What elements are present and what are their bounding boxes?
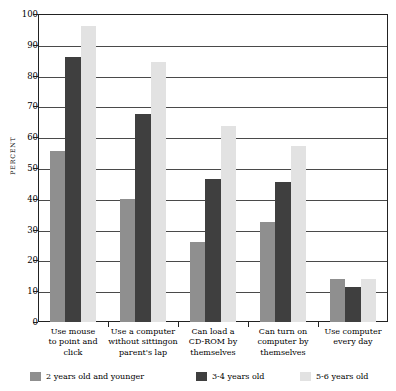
legend-item: 2 years old and younger (30, 372, 144, 381)
x-category-label-line: CD-ROM by (178, 337, 248, 347)
bar (205, 179, 221, 322)
bar (291, 146, 307, 322)
bar (50, 151, 66, 322)
x-category-label: Use mouseto point andclick (38, 327, 108, 358)
x-category-label-line: Use computer (318, 327, 388, 337)
y-tick: 80 (0, 76, 38, 77)
y-tick: 20 (0, 260, 38, 261)
x-category-label-line: without sittingon (108, 337, 178, 347)
y-tick: 30 (0, 230, 38, 231)
y-tick: 90 (0, 45, 38, 46)
x-category-label-line: Can load a (178, 327, 248, 337)
x-category-label-line: themselves (178, 348, 248, 358)
bar (330, 279, 346, 322)
x-category-label: Use computerevery day (318, 327, 388, 348)
x-category-label-line: Use mouse (38, 327, 108, 337)
chart-legend: 2 years old and younger3-4 years old5-6 … (0, 372, 396, 388)
y-tick: 0 (0, 322, 38, 323)
x-category-label-line: parent's lap (108, 348, 178, 358)
legend-swatch (196, 372, 207, 381)
y-tick: 100 (0, 14, 38, 15)
x-category-label: Use a computerwithout sittingonparent's … (108, 327, 178, 358)
bar-group (50, 14, 97, 322)
bar (221, 126, 237, 322)
bar (135, 114, 151, 322)
y-tick: 50 (0, 168, 38, 169)
bar (120, 199, 136, 322)
legend-label: 2 years old and younger (46, 372, 144, 381)
x-category-label-line: computer by (248, 337, 318, 347)
x-category-label-line: every day (318, 337, 388, 347)
x-category-label: Can load aCD-ROM bythemselves (178, 327, 248, 358)
x-category-label: Can turn oncomputer bythemselves (248, 327, 318, 358)
y-tick: 10 (0, 291, 38, 292)
bar-group (190, 14, 237, 322)
x-category-label-line: to point and (38, 337, 108, 347)
bar (361, 279, 377, 322)
bar-group (120, 14, 167, 322)
bars-layer (38, 14, 388, 322)
legend-swatch (30, 372, 41, 381)
y-axis-title: PERCENT (9, 121, 16, 191)
bar-group (330, 14, 377, 322)
bar (260, 222, 276, 322)
legend-label: 5-6 years old (316, 372, 368, 381)
bar-chart: PERCENT 0102030405060708090100 Use mouse… (0, 0, 396, 391)
bar (65, 57, 81, 322)
legend-swatch (300, 372, 311, 381)
bar-group (260, 14, 307, 322)
y-tick-mark (33, 322, 38, 323)
y-tick: 70 (0, 106, 38, 107)
x-category-label-line: Can turn on (248, 327, 318, 337)
bar (81, 26, 97, 322)
y-tick: 40 (0, 199, 38, 200)
legend-label: 3-4 years old (212, 372, 264, 381)
x-category-label-line: Use a computer (108, 327, 178, 337)
y-tick: 60 (0, 137, 38, 138)
legend-item: 5-6 years old (300, 372, 368, 381)
bar (345, 287, 361, 322)
x-category-label-line: click (38, 348, 108, 358)
bar (151, 62, 167, 322)
legend-item: 3-4 years old (196, 372, 264, 381)
bar (190, 242, 206, 322)
x-category-label-line: themselves (248, 348, 318, 358)
bar (275, 182, 291, 322)
